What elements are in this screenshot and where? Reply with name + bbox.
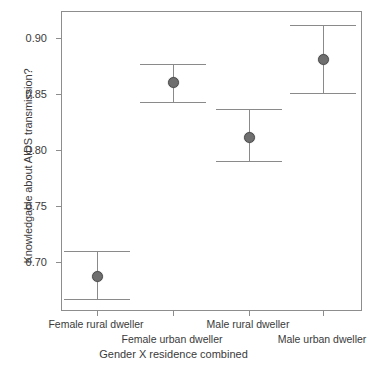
y-tick-label-1: 0.75 [26, 200, 47, 212]
x-tick-3 [323, 310, 324, 316]
y-tick-1: 0.75 [56, 206, 62, 207]
y-tick-3: 0.85 [56, 94, 62, 95]
x-tick-0 [97, 310, 98, 316]
plot-area: 0.70 0.75 0.80 0.85 0.90 [61, 11, 362, 311]
chart-figure: Knowledgable about AIDS transmission? 0.… [0, 0, 377, 371]
data-point-marker-2 [244, 132, 255, 143]
x-axis-title: Gender X residence combined [0, 348, 377, 360]
y-tick-label-4: 0.90 [26, 32, 47, 44]
x-category-label-0: Female rural dweller [48, 318, 143, 330]
x-tick-1 [173, 310, 174, 316]
data-point-marker-3 [318, 54, 329, 65]
x-category-label-3: Male urban dweller [278, 333, 367, 345]
errorbar-cap-lower-2 [216, 161, 282, 162]
y-tick-0: 0.70 [56, 262, 62, 263]
x-category-label-2: Male rural dweller [207, 318, 290, 330]
errorbar-cap-lower-1 [140, 102, 206, 103]
errorbar-cap-lower-3 [290, 93, 356, 94]
x-category-label-1: Female urban dweller [122, 333, 223, 345]
x-tick-2 [249, 310, 250, 316]
y-tick-4: 0.90 [56, 38, 62, 39]
y-tick-label-2: 0.80 [26, 144, 47, 156]
data-point-marker-1 [168, 77, 179, 88]
y-tick-label-3: 0.85 [26, 88, 47, 100]
x-axis-title-text: Gender X residence combined [99, 348, 248, 360]
y-tick-2: 0.80 [56, 150, 62, 151]
y-tick-label-0: 0.70 [26, 256, 47, 268]
data-point-marker-0 [92, 271, 103, 282]
errorbar-cap-lower-0 [64, 299, 130, 300]
